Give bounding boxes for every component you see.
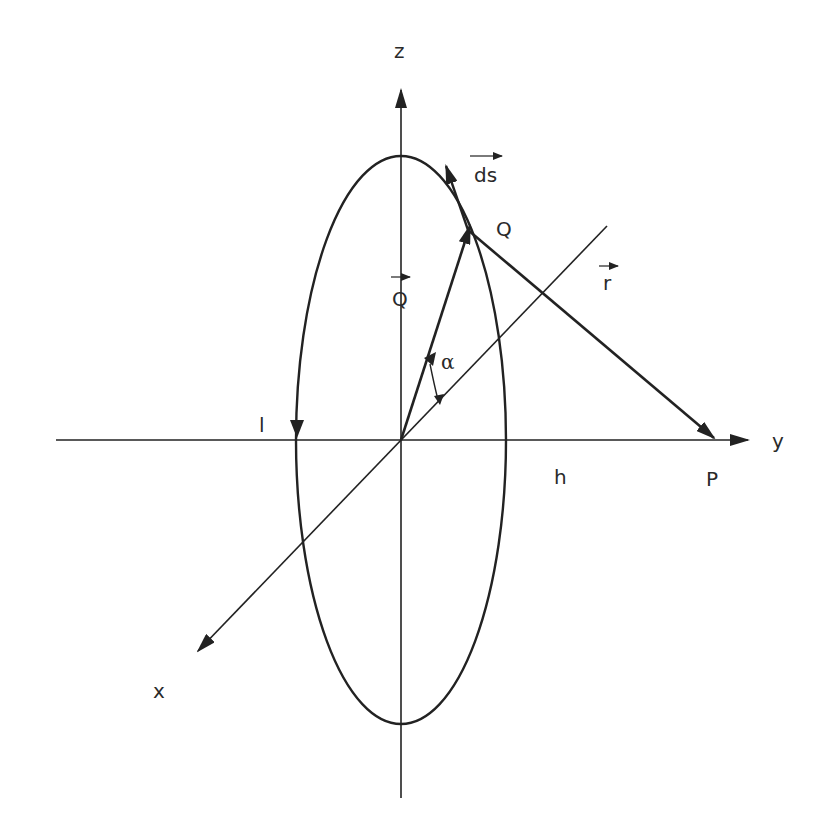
diagram-canvas: z y x ds Q Q r α l h P <box>0 0 828 828</box>
z-axis-label: z <box>394 39 405 63</box>
l-label: l <box>259 413 265 437</box>
ds-label: ds <box>474 163 497 187</box>
ds-vector <box>446 166 468 230</box>
y-axis-label: y <box>772 429 784 453</box>
loop-direction-arrow-icon <box>290 420 304 438</box>
alpha-label: α <box>441 350 455 374</box>
p-point-label: P <box>706 467 718 491</box>
x-axis-label: x <box>153 679 165 703</box>
r-vector-label: r <box>603 271 612 295</box>
q-vector-label: Q <box>392 287 408 311</box>
q-position-vector <box>401 226 470 440</box>
alpha-angle-arc <box>430 364 438 400</box>
h-label: h <box>554 465 567 489</box>
q-point-label: Q <box>496 217 512 241</box>
